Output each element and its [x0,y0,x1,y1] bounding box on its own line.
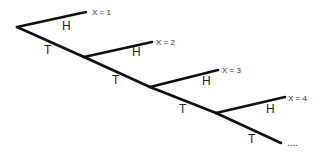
tails-label-2: T [112,73,120,87]
heads-label-4: H [266,102,275,116]
tails-label-4: T [248,132,256,146]
tails-label-3: T [179,102,187,116]
outcome-label-1: X = 1 [92,8,111,17]
heads-branch-2 [84,42,152,57]
tree-edges [17,12,285,143]
outcome-label-2: X = 2 [156,38,175,47]
heads-branch-1 [17,12,86,27]
outcome-label-3: X = 3 [222,66,241,75]
outcome-label-4: X = 4 [288,94,307,103]
continuation-ellipsis: .... [287,137,298,148]
tree-labels: HTX = 1HTX = 2HTX = 3HTX = 4.... [44,8,307,148]
heads-label-1: H [62,19,71,33]
probability-tree-diagram: HTX = 1HTX = 2HTX = 3HTX = 4.... [0,0,325,155]
heads-label-3: H [202,74,211,88]
tails-label-1: T [44,43,52,57]
heads-label-2: H [132,45,141,59]
